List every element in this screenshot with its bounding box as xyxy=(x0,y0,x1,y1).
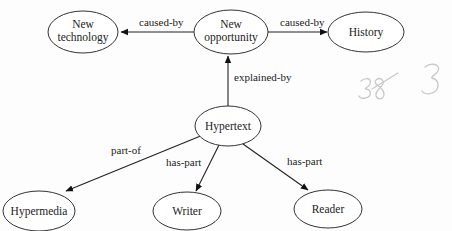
node-new-technology: New technology xyxy=(48,11,118,53)
edge-has-part-reader: has-part xyxy=(243,144,322,190)
edge-label-has-part: has-part xyxy=(166,156,201,168)
node-hypertext: Hypertext xyxy=(195,106,261,146)
node-label: Writer xyxy=(172,205,202,217)
edge-explained-by: explained-by xyxy=(228,56,292,106)
node-label: technology xyxy=(57,31,108,44)
edge-label-part-of: part-of xyxy=(111,144,141,156)
node-writer: Writer xyxy=(153,192,221,230)
edge-label-caused-by: caused-by xyxy=(139,16,184,28)
concept-map: caused-by caused-by explained-by part-of… xyxy=(0,0,452,231)
node-new-opportunity: New opportunity xyxy=(194,10,268,54)
node-label: New xyxy=(220,18,242,30)
edge-label-caused-by: caused-by xyxy=(280,16,325,28)
node-label: New xyxy=(72,18,94,30)
node-label: Hypermedia xyxy=(11,205,68,218)
node-history: History xyxy=(328,12,404,52)
node-hypermedia: Hypermedia xyxy=(3,191,75,231)
edge-has-part-writer: has-part xyxy=(166,145,219,191)
node-label: Hypertext xyxy=(205,120,252,133)
node-label: History xyxy=(349,26,384,39)
diagram-canvas: caused-by caused-by explained-by part-of… xyxy=(0,0,452,231)
edge-caused-by-technology: caused-by xyxy=(121,16,194,32)
handwritten-annotation xyxy=(359,64,439,99)
edge-caused-by-history: caused-by xyxy=(268,16,327,32)
edge-label-explained-by: explained-by xyxy=(234,71,292,83)
node-label: opportunity xyxy=(204,31,258,44)
node-reader: Reader xyxy=(294,190,362,228)
node-label: Reader xyxy=(312,203,345,215)
edge-label-has-part: has-part xyxy=(287,155,322,167)
